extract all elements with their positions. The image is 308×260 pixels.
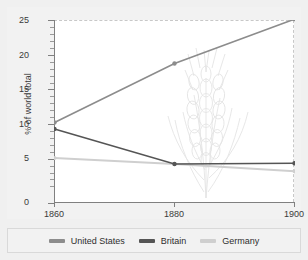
- y-minor-tick: [50, 173, 54, 174]
- y-minor-tick: [50, 48, 54, 49]
- y-tick-label-5: 5: [24, 154, 29, 163]
- series-line-united-states: [54, 20, 295, 125]
- y-major-tick-5: [48, 159, 54, 160]
- legend-item-germany[interactable]: Germany: [200, 236, 259, 246]
- y-tick-label-25: 25: [19, 16, 29, 25]
- y-minor-tick: [50, 166, 54, 167]
- x-major-tick-1880: [174, 202, 175, 207]
- legend-swatch-icon-germany: [200, 239, 216, 243]
- x-major-tick-1900: [294, 202, 295, 207]
- y-minor-tick: [50, 34, 54, 35]
- y-minor-tick: [50, 117, 54, 118]
- y-minor-tick: [50, 103, 54, 104]
- y-major-tick-10: [48, 124, 54, 125]
- legend-label-germany: Germany: [222, 236, 259, 246]
- legend-swatch-icon-united-states: [49, 239, 65, 243]
- y-minor-tick: [50, 152, 54, 153]
- y-minor-tick: [50, 145, 54, 146]
- y-major-tick-25: [48, 20, 54, 21]
- x-tick-label-1880: 1880: [154, 209, 194, 219]
- y-axis-title: % of world total: [23, 59, 33, 149]
- legend-swatch-icon-britain: [139, 239, 155, 243]
- y-minor-tick: [50, 179, 54, 180]
- y-major-tick-15: [48, 89, 54, 90]
- legend-item-britain[interactable]: Britain: [139, 236, 187, 246]
- y-minor-tick: [50, 62, 54, 63]
- y-minor-tick: [50, 96, 54, 97]
- y-minor-tick: [50, 27, 54, 28]
- y-minor-tick: [50, 138, 54, 139]
- plot-svg: [54, 20, 295, 203]
- y-minor-tick: [50, 76, 54, 77]
- legend-item-united-states[interactable]: United States: [49, 236, 125, 246]
- x-major-tick-1860: [54, 202, 55, 207]
- y-tick-label-0: 0: [24, 198, 29, 207]
- y-minor-tick: [50, 186, 54, 187]
- chart-page: 25 20 15 10 5 0 1860 1880 1900 % of worl…: [0, 0, 308, 260]
- y-minor-tick: [50, 131, 54, 132]
- legend-label-britain: Britain: [161, 236, 187, 246]
- y-minor-tick: [50, 110, 54, 111]
- y-minor-tick: [50, 69, 54, 70]
- y-minor-tick: [50, 41, 54, 42]
- chart-panel: 25 20 15 10 5 0 1860 1880 1900 % of worl…: [7, 7, 301, 219]
- legend-label-united-states: United States: [71, 236, 125, 246]
- y-minor-tick: [50, 83, 54, 84]
- x-tick-label-1860: 1860: [34, 209, 74, 219]
- x-tick-label-1900: 1900: [274, 209, 308, 219]
- y-major-tick-20: [48, 55, 54, 56]
- wheat-watermark: [168, 48, 248, 198]
- chart-legend: United States Britain Germany: [7, 228, 301, 253]
